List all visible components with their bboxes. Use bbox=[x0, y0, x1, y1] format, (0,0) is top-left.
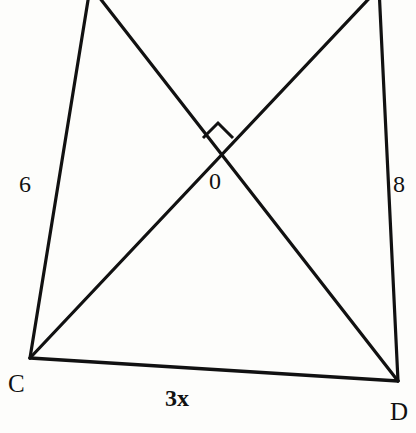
label-intersection-point: 0 bbox=[209, 169, 221, 193]
geometry-figure: 6 8 0 C D 3x bbox=[0, 0, 416, 433]
label-bottom-side-length: 3x bbox=[165, 386, 189, 410]
label-right-side-length: 8 bbox=[393, 172, 405, 196]
geometry-canvas bbox=[0, 0, 416, 433]
segment-bottom-side bbox=[30, 358, 398, 381]
label-vertex-d: D bbox=[390, 399, 408, 424]
label-vertex-c: C bbox=[8, 371, 25, 396]
label-left-side-length: 6 bbox=[19, 172, 31, 196]
segment-diagonal-topleft-to-d bbox=[92, 0, 398, 381]
segment-diagonal-c-to-topright bbox=[30, 0, 379, 358]
